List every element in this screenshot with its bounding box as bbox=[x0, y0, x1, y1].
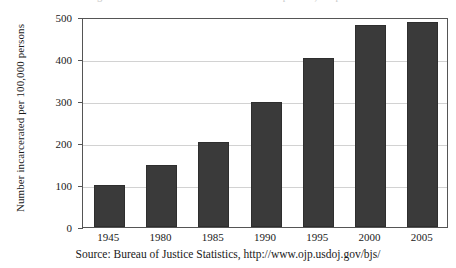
y-axis-title: Number incarcerated per 100,000 persons bbox=[14, 10, 26, 226]
bar bbox=[94, 185, 125, 227]
x-axis-tick-label: 1985 bbox=[187, 231, 239, 243]
y-axis-tick-label: 200 bbox=[32, 139, 72, 150]
y-axis-tick-mark bbox=[78, 228, 83, 229]
x-axis-tick-label: 1990 bbox=[239, 231, 291, 243]
bar-chart-figure: Figure: Incarceration rate in the United… bbox=[0, 0, 456, 268]
x-axis-tick-label: 1980 bbox=[134, 231, 186, 243]
y-axis-tick-label: 500 bbox=[32, 13, 72, 24]
clipped-figure-title: Figure: Incarceration rate in the United… bbox=[0, 0, 456, 3]
bar bbox=[198, 142, 229, 227]
bar bbox=[251, 102, 282, 227]
bar bbox=[407, 22, 438, 227]
source-caption: Source: Bureau of Justice Statistics, ht… bbox=[0, 248, 456, 260]
y-axis-tick-label: 100 bbox=[32, 181, 72, 192]
x-axis-tick-label: 2005 bbox=[396, 231, 448, 243]
bar bbox=[303, 58, 334, 227]
y-axis-tick-label: 300 bbox=[32, 97, 72, 108]
bar-series bbox=[83, 19, 447, 227]
y-axis-tick-label: 0 bbox=[32, 223, 72, 234]
bar bbox=[146, 165, 177, 227]
plot-area bbox=[82, 18, 448, 228]
x-axis-tick-label: 1995 bbox=[291, 231, 343, 243]
x-axis-tick-label: 1945 bbox=[82, 231, 134, 243]
y-axis-tick-label: 400 bbox=[32, 55, 72, 66]
x-axis-tick-label: 2000 bbox=[344, 231, 396, 243]
bar bbox=[355, 25, 386, 227]
